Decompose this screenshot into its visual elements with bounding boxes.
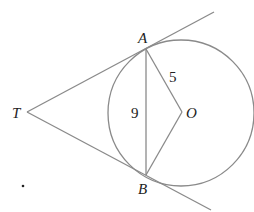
label-o: O <box>186 105 197 121</box>
tangent-circle-diagram: A B T O 5 9 <box>0 0 254 212</box>
label-a: A <box>137 30 148 46</box>
label-ab-length: 9 <box>131 105 139 121</box>
tangent-line-tb <box>27 112 211 210</box>
label-ao-length: 5 <box>169 69 177 85</box>
radius-ao <box>146 49 182 112</box>
radius-bo <box>146 112 182 175</box>
label-b: B <box>138 181 147 197</box>
tangent-line-ta <box>27 12 214 112</box>
dot-mark <box>22 185 25 188</box>
label-t: T <box>12 105 22 121</box>
